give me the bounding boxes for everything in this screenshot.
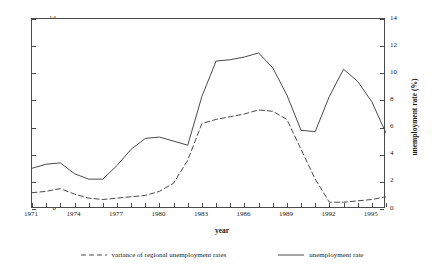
legend-item-variance: variance of regional unemployment rates — [81, 251, 227, 259]
dashed-line-icon — [81, 252, 107, 258]
x-axis-tick — [273, 203, 274, 207]
x-axis-tick — [344, 203, 345, 207]
y-axis-right-tick — [380, 73, 384, 74]
legend-item-unemployment-rate: unemployment rate — [278, 251, 363, 259]
y-axis-right-tick — [380, 46, 384, 47]
x-axis-tick-label: 1983 — [186, 211, 216, 218]
y-axis-left-tick — [32, 100, 36, 101]
x-axis-tick — [358, 203, 359, 207]
y-axis-right-tick — [380, 100, 384, 101]
legend-label-unemployment-rate: unemployment rate — [309, 251, 363, 259]
x-axis-tick — [188, 203, 189, 207]
y-axis-right-tick-label: 6 — [390, 123, 410, 130]
y-axis-right-tick-label: 14 — [390, 15, 410, 22]
x-axis-tick — [32, 203, 33, 207]
x-axis-tick — [329, 203, 330, 207]
x-axis-tick — [89, 203, 90, 207]
y-axis-right-tick-label: 8 — [390, 96, 410, 103]
x-axis-tick — [174, 203, 175, 207]
legend-label-variance: variance of regional unemployment rates — [112, 251, 227, 259]
y-axis-right-tick — [380, 182, 384, 183]
x-axis-tick — [117, 203, 118, 207]
solid-line-icon — [278, 252, 304, 258]
x-axis-tick-label: 1989 — [271, 211, 301, 218]
x-axis-tick — [145, 203, 146, 207]
x-axis-tick-label: 1992 — [313, 211, 343, 218]
series-variance-of-regional-unemployment-rates — [32, 110, 386, 202]
x-axis-tick-label: 1977 — [101, 211, 131, 218]
x-axis-tick — [60, 203, 61, 207]
x-axis-title: year — [0, 227, 444, 235]
chart-legend: variance of regional unemployment rates … — [0, 248, 444, 262]
y-axis-left-tick — [32, 128, 36, 129]
x-axis-tick — [103, 203, 104, 207]
x-axis-tick — [202, 203, 203, 207]
x-axis-tick — [131, 203, 132, 207]
y-axis-right-tick — [380, 128, 384, 129]
x-axis-tick — [259, 203, 260, 207]
y-axis-right-tick-label: 4 — [390, 150, 410, 157]
x-axis-tick — [159, 203, 160, 207]
x-axis-tick-label: 1986 — [228, 211, 258, 218]
x-axis-tick — [287, 203, 288, 207]
y-axis-right-tick-label: 2 — [390, 177, 410, 184]
y-axis-right-tick-label: 10 — [390, 69, 410, 76]
series-canvas — [32, 19, 386, 209]
y-axis-left-tick — [32, 19, 36, 20]
x-axis-tick — [75, 203, 76, 207]
y-axis-right-tick — [380, 155, 384, 156]
y-axis-left-tick — [32, 155, 36, 156]
chart-figure: 02468101214 02468101214 1971197419771980… — [0, 0, 444, 270]
y-axis-left-tick — [32, 209, 36, 210]
x-axis-tick — [46, 203, 47, 207]
y-axis-right-title: unemployment rate (%) — [411, 57, 419, 177]
x-axis-tick — [244, 203, 245, 207]
y-axis-left-tick — [32, 73, 36, 74]
x-axis-tick — [216, 203, 217, 207]
y-axis-left-tick — [32, 182, 36, 183]
x-axis-tick-label: 1971 — [16, 211, 46, 218]
series-unemployment-rate — [32, 53, 386, 179]
plot-area — [31, 18, 385, 208]
y-axis-right-tick-label: 12 — [390, 42, 410, 49]
x-axis-tick — [315, 203, 316, 207]
x-axis-tick — [386, 203, 387, 207]
x-axis-tick-label: 1995 — [356, 211, 386, 218]
x-axis-tick-label: 1980 — [143, 211, 173, 218]
y-axis-left-tick — [32, 46, 36, 47]
x-axis-tick — [301, 203, 302, 207]
y-axis-right-tick — [380, 209, 384, 210]
y-axis-right-tick-label: 0 — [390, 205, 410, 212]
x-axis-tick — [230, 203, 231, 207]
x-axis-tick-label: 1974 — [59, 211, 89, 218]
x-axis-tick — [372, 203, 373, 207]
y-axis-right-tick — [380, 19, 384, 20]
